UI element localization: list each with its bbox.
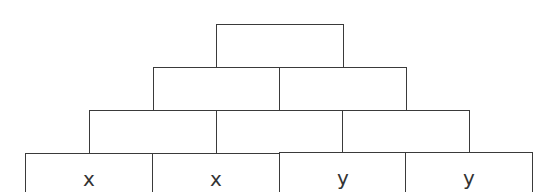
pyramid-cell-r4-c1: x [25,153,153,192]
pyramid-cell-r4-c4: y [405,152,533,192]
pyramid-cell-r2-c1 [153,67,281,112]
pyramid-cell-r2-c2 [279,67,407,112]
cell-label: y [463,166,475,190]
cell-label: x [83,167,95,191]
cell-label: y [337,166,349,190]
pyramid-cell-r3-c1 [89,110,217,155]
pyramid-cell-r3-c2 [216,110,344,155]
cell-label: x [210,167,222,191]
pyramid-cell-r3-c3 [342,110,470,155]
pyramid-cell-r4-c3: y [279,152,407,192]
pyramid-cell-r1-c1 [216,24,344,69]
number-pyramid: x x y y [0,0,557,192]
pyramid-cell-r4-c2: x [152,153,280,192]
